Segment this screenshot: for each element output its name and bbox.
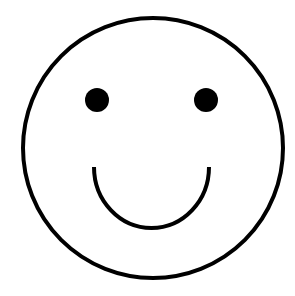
background [0,0,295,296]
smiley-face-canvas [0,0,295,296]
right-eye [194,88,218,112]
left-eye [85,88,109,112]
